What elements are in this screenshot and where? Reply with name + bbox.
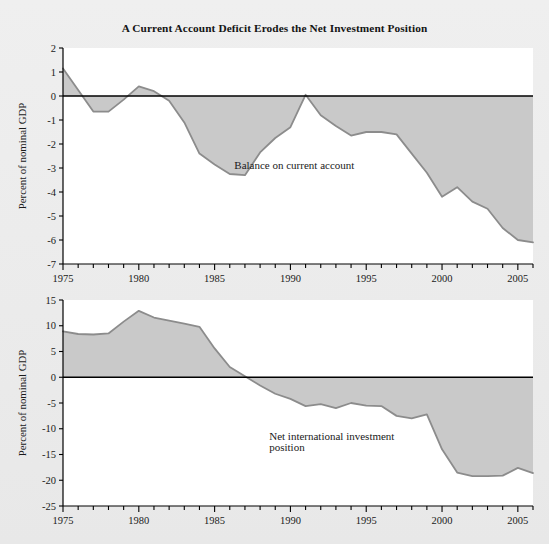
y-tick-label: 15 <box>46 295 57 306</box>
y-tick-label: -6 <box>47 235 56 246</box>
x-tick-label: 1990 <box>280 515 301 526</box>
x-tick-label: 2000 <box>432 273 453 284</box>
y-tick-label: -20 <box>42 475 56 486</box>
x-tick-label: 1985 <box>204 515 225 526</box>
y-tick-label: -10 <box>42 423 56 434</box>
chart-annotation: position <box>269 441 305 453</box>
figure-title: A Current Account Deficit Erodes the Net… <box>0 22 549 34</box>
y-axis-title-net-investment-position: Percent of nominal GDP <box>16 350 28 456</box>
x-tick-label: 1985 <box>204 273 225 284</box>
y-axis-title-current-account: Percent of nominal GDP <box>16 103 28 209</box>
x-tick-label: 1980 <box>128 273 149 284</box>
x-tick-label: 1975 <box>53 515 74 526</box>
x-tick-label: 2005 <box>507 273 528 284</box>
x-tick-label: 1995 <box>356 515 377 526</box>
chart-svg-net-investment-position: 151050-5-10-15-20-2519751980198519901995… <box>0 288 549 544</box>
x-tick-label: 1990 <box>280 273 301 284</box>
y-tick-label: 1 <box>51 67 56 78</box>
y-tick-label: -7 <box>47 259 56 270</box>
y-tick-label: -15 <box>42 449 56 460</box>
x-tick-label: 2005 <box>507 515 528 526</box>
y-tick-label: 2 <box>51 43 56 54</box>
y-tick-label: 5 <box>51 346 56 357</box>
chart-panel-net-investment-position: 151050-5-10-15-20-2519751980198519901995… <box>0 288 549 544</box>
y-tick-label: -25 <box>42 501 56 512</box>
y-tick-label: -3 <box>47 163 56 174</box>
y-tick-label: 0 <box>51 91 56 102</box>
x-tick-label: 1975 <box>53 273 74 284</box>
y-tick-label: -5 <box>47 211 56 222</box>
x-tick-label: 2000 <box>432 515 453 526</box>
x-tick-label: 1980 <box>128 515 149 526</box>
figure-container: A Current Account Deficit Erodes the Net… <box>0 0 549 544</box>
y-tick-label: 10 <box>46 320 57 331</box>
y-tick-label: 0 <box>51 372 56 383</box>
chart-svg-current-account: 210-1-2-3-4-5-6-719751980198519901995200… <box>0 40 549 288</box>
chart-panel-current-account: 210-1-2-3-4-5-6-719751980198519901995200… <box>0 40 549 288</box>
y-tick-label: -4 <box>47 187 56 198</box>
y-tick-label: -1 <box>47 115 56 126</box>
chart-annotation: Balance on current account <box>234 159 354 171</box>
y-tick-label: -2 <box>47 139 56 150</box>
x-tick-label: 1995 <box>356 273 377 284</box>
y-tick-label: -5 <box>47 398 56 409</box>
